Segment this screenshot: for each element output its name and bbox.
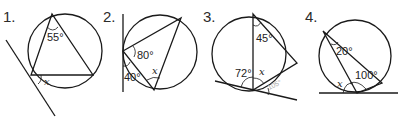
angle-arc <box>133 46 135 57</box>
angle-label-20: 20° <box>336 45 353 57</box>
angle-label: 55° <box>47 31 64 43</box>
problem-number: 2. <box>103 8 116 25</box>
problem-number: 3. <box>203 8 216 25</box>
problem-number: 1. <box>3 8 16 25</box>
angle-label-40: 40° <box>124 71 141 83</box>
problem-3: 3. 45° 72° x 105° <box>203 8 297 100</box>
angle-label-45: 45° <box>256 32 273 44</box>
unknown-x: x <box>337 78 343 89</box>
inscribed-triangle <box>253 14 297 90</box>
unknown-x: x <box>259 66 265 77</box>
tangent-line <box>215 81 297 100</box>
problem-4: 4. 20° 100° x <box>305 8 398 93</box>
angle-label-80: 80° <box>137 49 154 61</box>
problem-number: 4. <box>305 8 318 25</box>
angle-label-100: 100° <box>355 69 378 81</box>
unknown-x: x <box>44 76 50 87</box>
angle-arc <box>253 22 261 26</box>
problem-1: 1. 55° x <box>3 8 102 116</box>
circle-theorem-diagrams: 1. 55° x 2. 80° 40° x 3. 45° 72° x 105° <box>0 0 401 121</box>
problem-2: 2. 80° 40° x <box>103 8 197 92</box>
angle-label-72: 72° <box>235 67 252 79</box>
angle-arc <box>47 27 58 30</box>
angle-arc-x <box>253 78 264 84</box>
unknown-x: x <box>152 65 158 76</box>
